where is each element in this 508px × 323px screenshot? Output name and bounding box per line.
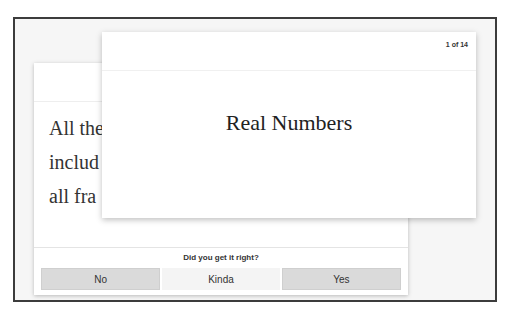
yes-button[interactable]: Yes — [282, 268, 401, 290]
feedback-prompt: Did you get it right? — [34, 253, 408, 262]
feedback-panel: Did you get it right? No Kinda Yes — [34, 247, 408, 295]
card-header: 1 of 14 — [102, 32, 476, 71]
definition-line: includ — [49, 145, 104, 179]
flashcard-frame: All the includ all fra Did you get it ri… — [13, 17, 497, 302]
definition-text: All the includ all fra — [49, 111, 104, 213]
card-term: Real Numbers — [102, 110, 476, 136]
definition-line: all fra — [49, 179, 104, 213]
kinda-button[interactable]: Kinda — [162, 268, 279, 290]
no-button[interactable]: No — [41, 268, 160, 290]
flashcard-front[interactable]: 1 of 14 Real Numbers — [102, 32, 476, 218]
card-counter: 1 of 14 — [446, 41, 468, 48]
feedback-buttons: No Kinda Yes — [41, 268, 401, 290]
definition-line: All the — [49, 111, 104, 145]
